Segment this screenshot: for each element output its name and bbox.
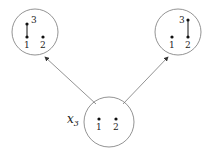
- point-label-3: 3: [179, 15, 185, 25]
- point-2: [41, 35, 44, 38]
- point-2: [186, 35, 189, 38]
- point-label-1: 1: [96, 122, 102, 132]
- arrow-bottom-to-right: [123, 57, 168, 104]
- point-1: [25, 35, 28, 38]
- diagram-canvas: 13212312 x3: [0, 0, 212, 148]
- node-bottom: 12: [84, 97, 134, 147]
- diagram-svg: 13212312 x3: [0, 0, 212, 148]
- node-left: 132: [12, 9, 58, 55]
- nodes: 13212312: [12, 9, 201, 147]
- point-2: [114, 117, 117, 120]
- node-label-x3: x3: [67, 112, 79, 128]
- point-label-2: 2: [185, 40, 191, 50]
- point-label-1: 1: [169, 40, 175, 50]
- point-label-2: 2: [40, 40, 46, 50]
- node-right: 123: [155, 9, 201, 55]
- point-3: [25, 22, 28, 25]
- point-label-2: 2: [113, 122, 119, 132]
- point-label-1: 1: [24, 40, 30, 50]
- point-3: [186, 18, 189, 21]
- point-1: [97, 117, 100, 120]
- point-label-3: 3: [31, 15, 37, 25]
- point-1: [170, 35, 173, 38]
- node-circle: [84, 97, 134, 147]
- node-circle: [155, 9, 201, 55]
- arrow-bottom-to-left: [45, 57, 96, 104]
